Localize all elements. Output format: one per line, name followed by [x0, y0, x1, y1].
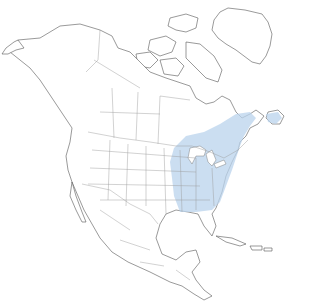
cuba — [216, 236, 246, 246]
arctic-islands — [168, 14, 198, 32]
hispaniola — [250, 246, 262, 250]
baffin-island — [186, 42, 222, 82]
arctic-islands — [148, 36, 176, 56]
range-map — [0, 0, 320, 308]
greenland — [212, 8, 272, 64]
caribbean-islands — [264, 248, 272, 251]
victoria-island — [160, 58, 184, 76]
